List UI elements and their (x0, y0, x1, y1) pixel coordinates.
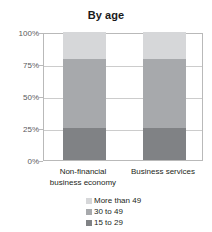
legend-label: 15 to 29 (94, 218, 123, 227)
bar-segment[interactable] (63, 32, 106, 59)
legend-label: More than 49 (94, 196, 141, 205)
y-axis-tick-label: 75% (23, 61, 39, 70)
y-axis-tick (39, 33, 43, 34)
x-axis-category-line: Business services (120, 166, 206, 177)
legend-label: 30 to 49 (94, 207, 123, 216)
bar-segment[interactable] (143, 128, 186, 160)
y-axis-tick (39, 65, 43, 66)
stacked-bar[interactable] (143, 32, 186, 160)
x-axis-category-line: business economy (40, 177, 126, 188)
x-axis-category-line: Non-financial (40, 166, 126, 177)
chart-container: By age 0%25%50%75%100% Non-financialbusi… (0, 0, 212, 232)
x-axis-labels: Non-financialbusiness economyBusiness se… (43, 166, 203, 194)
legend-swatch-icon (86, 209, 92, 215)
y-axis-tick-label: 100% (19, 29, 39, 38)
legend-item[interactable]: 30 to 49 (0, 206, 212, 217)
stacked-bar[interactable] (63, 32, 106, 160)
legend-item[interactable]: 15 to 29 (0, 217, 212, 228)
legend-item[interactable]: More than 49 (0, 195, 212, 206)
bar-segment[interactable] (63, 128, 106, 160)
y-axis-tick-label: 0% (27, 157, 39, 166)
y-axis-tick (39, 97, 43, 98)
bar-segment[interactable] (143, 59, 186, 128)
bar-segment[interactable] (63, 59, 106, 128)
y-axis-tick (39, 161, 43, 162)
x-axis-category-label: Business services (120, 166, 206, 177)
x-axis-category-label: Non-financialbusiness economy (40, 166, 126, 188)
legend-swatch-icon (86, 220, 92, 226)
bar-segment[interactable] (143, 32, 186, 59)
y-axis-tick-label: 25% (23, 125, 39, 134)
legend-swatch-icon (86, 198, 92, 204)
y-axis-tick (39, 129, 43, 130)
chart-title: By age (0, 9, 212, 21)
y-axis-labels: 0%25%50%75%100% (0, 33, 39, 161)
chart-legend: More than 4930 to 4915 to 29 (0, 195, 212, 228)
y-axis-tick-label: 50% (23, 93, 39, 102)
plot-area (43, 33, 203, 161)
